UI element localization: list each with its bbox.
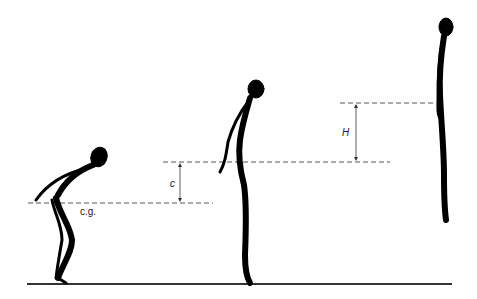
peak-figure [438,18,453,220]
crouch-figure [36,145,110,283]
cg-label: c.g. [80,206,96,217]
takeoff-figure [220,80,264,283]
c-label: c [170,178,175,189]
jump-diagram: c H c.g. [0,0,477,299]
h-label: H [342,127,350,138]
